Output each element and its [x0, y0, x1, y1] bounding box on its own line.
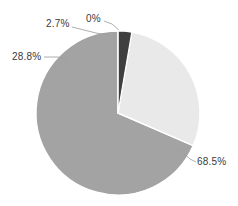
- pie-label-68-5: 68.5%: [197, 157, 226, 167]
- pie-label-28-8: 28.8%: [12, 52, 41, 62]
- pie-label-2-7: 2.7%: [46, 19, 70, 29]
- pie-chart: 0% 2.7% 28.8% 68.5%: [0, 0, 238, 206]
- pie-label-0: 0%: [86, 14, 101, 24]
- pie-chart-svg: [0, 0, 238, 206]
- leader-line-2-7: [72, 27, 109, 35]
- leader-line-0: [104, 21, 119, 30]
